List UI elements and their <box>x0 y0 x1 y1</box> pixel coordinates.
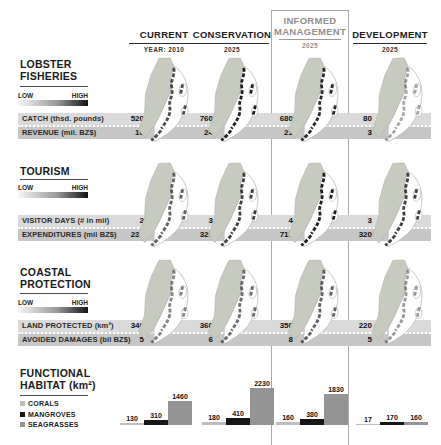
metric-label: LAND PROTECTED (km²) <box>22 320 114 332</box>
gradient-scale-bar <box>18 100 88 106</box>
habitat-bars-current: 130 310 1460 <box>120 393 192 425</box>
scenario-label: CONSERVATION <box>190 30 274 41</box>
corals-bar <box>356 424 380 425</box>
corals-bar <box>120 423 144 425</box>
scale-high-label: HIGH <box>72 92 88 99</box>
section-divider <box>20 293 88 294</box>
header-underline <box>279 39 341 40</box>
metric-label: CATCH (thsd. pounds) <box>22 113 104 125</box>
header-underline <box>353 43 427 44</box>
scenario-year: 2025 <box>348 45 432 56</box>
corals-swatch-icon <box>20 401 25 406</box>
section-title-coastal-protection: COASTAL PROTECTION <box>20 267 91 290</box>
section-divider <box>20 179 88 180</box>
section-title-line: FISHERIES <box>20 71 77 83</box>
section-title-line: COASTAL <box>20 267 91 279</box>
belize-map-tourism-conservation <box>208 162 266 252</box>
corals-bar <box>276 422 300 425</box>
header-underline <box>195 43 269 44</box>
section-title-line: TOURISM <box>20 166 70 178</box>
scenario-header-development: DEVELOPMENT 2025 <box>348 30 432 55</box>
low-high-scale-lobster: LOWHIGH <box>18 92 88 106</box>
bar-value-label: 380 <box>306 411 318 418</box>
legend-label: MANGROVES <box>28 411 76 418</box>
belize-map-lobster-informed <box>288 57 346 147</box>
seagrasses-bar <box>250 388 274 425</box>
gradient-scale-bar <box>18 307 88 313</box>
bar-seagrasses: 160 <box>404 414 428 425</box>
bar-value-label: 130 <box>126 415 138 422</box>
mangroves-bar <box>380 422 404 425</box>
legend-label: SEAGRASSES <box>28 421 79 428</box>
belize-map-lobster-conservation <box>208 57 266 147</box>
scenario-label: DEVELOPMENT <box>348 30 432 41</box>
seagrasses-bar <box>324 394 348 425</box>
bar-mangroves: 410 <box>226 410 250 425</box>
scenario-year: 2025 <box>274 41 346 52</box>
bar-mangroves: 310 <box>144 412 168 425</box>
scenario-header-informed-management: INFORMED MANAGEMENT 2025 <box>274 16 346 52</box>
mangroves-bar <box>226 418 250 425</box>
section-divider <box>20 395 88 396</box>
corals-bar <box>202 422 226 425</box>
bar-value-label: 170 <box>386 414 398 421</box>
legend-label: CORALS <box>28 400 59 407</box>
bar-seagrasses: 1830 <box>324 386 348 425</box>
legend-item-seagrasses: SEAGRASSES <box>20 421 79 428</box>
mangroves-swatch-icon <box>20 412 25 417</box>
legend-item-mangroves: MANGROVES <box>20 411 79 418</box>
section-title-line: FUNCTIONAL <box>20 368 96 380</box>
habitat-bars-informed: 160 380 1830 <box>276 386 348 425</box>
bar-mangroves: 380 <box>300 411 324 425</box>
scale-high-label: HIGH <box>72 184 88 191</box>
bar-corals: 130 <box>120 415 144 425</box>
mangroves-bar <box>144 420 168 425</box>
section-title-functional-habitat: FUNCTIONAL HABITAT (km²) <box>20 368 96 391</box>
bar-value-label: 410 <box>232 410 244 417</box>
metric-label: EXPENDITURES (mil BZ$) <box>22 229 117 241</box>
belize-map-tourism-development <box>372 162 430 252</box>
section-title-tourism: TOURISM <box>20 166 70 178</box>
mangroves-bar <box>300 419 324 425</box>
seagrasses-swatch-icon <box>20 422 25 427</box>
low-high-scale-coastal: LOWHIGH <box>18 299 88 313</box>
scenario-comparison-figure: CURRENT YEAR: 2010 CONSERVATION 2025 INF… <box>0 0 441 445</box>
header-underline <box>129 43 199 44</box>
bar-mangroves: 170 <box>380 414 404 425</box>
habitat-legend: CORALS MANGROVES SEAGRASSES <box>20 400 79 432</box>
bar-corals: 160 <box>276 414 300 425</box>
habitat-bars-conservation: 180 410 2230 <box>202 380 274 425</box>
scale-high-label: HIGH <box>72 299 88 306</box>
bar-value-label: 160 <box>282 414 294 421</box>
belize-map-lobster-current <box>138 57 196 147</box>
scenario-header-conservation: CONSERVATION 2025 <box>190 30 274 55</box>
belize-map-lobster-development <box>372 57 430 147</box>
metric-label: VISITOR DAYS (# in mil) <box>22 215 109 227</box>
bar-seagrasses: 2230 <box>250 380 274 425</box>
bar-value-label: 1460 <box>172 393 188 400</box>
metric-label: REVENUE (mil. BZ$) <box>22 127 96 139</box>
bar-corals: 180 <box>202 414 226 425</box>
belize-map-coastal-current <box>138 259 196 349</box>
belize-map-coastal-conservation <box>208 259 266 349</box>
scale-low-label: LOW <box>18 184 33 191</box>
section-divider <box>20 86 88 87</box>
gradient-scale-bar <box>18 192 88 198</box>
seagrasses-bar <box>404 422 428 425</box>
section-title-line: HABITAT (km²) <box>20 380 96 392</box>
low-high-scale-tourism: LOWHIGH <box>18 184 88 198</box>
bar-value-label: 1830 <box>328 386 344 393</box>
section-title-line: PROTECTION <box>20 279 91 291</box>
section-title-line: LOBSTER <box>20 59 77 71</box>
belize-map-coastal-informed <box>288 259 346 349</box>
belize-map-tourism-current <box>138 162 196 252</box>
section-title-lobster-fisheries: LOBSTER FISHERIES <box>20 59 77 82</box>
bar-corals: 17 <box>356 416 380 425</box>
bar-value-label: 310 <box>150 412 162 419</box>
bar-value-label: 2230 <box>254 380 270 387</box>
bar-value-label: 17 <box>364 416 372 423</box>
scale-low-label: LOW <box>18 92 33 99</box>
scale-low-label: LOW <box>18 299 33 306</box>
bar-seagrasses: 1460 <box>168 393 192 425</box>
scenario-label: INFORMED MANAGEMENT <box>274 16 346 37</box>
